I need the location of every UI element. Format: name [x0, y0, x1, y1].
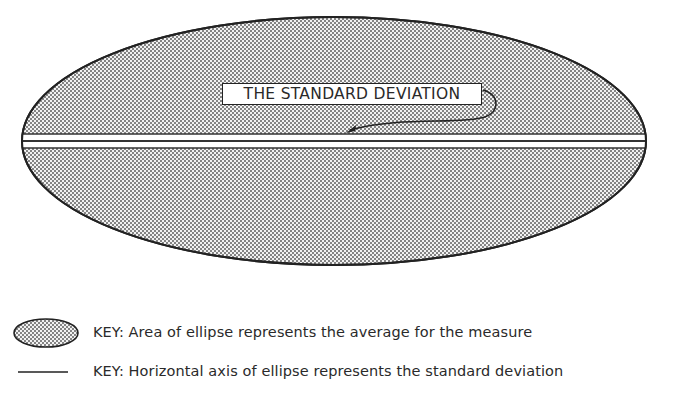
legend-item-axis: KEY: Horizontal axis of ellipse represen… [93, 363, 563, 379]
standard-deviation-label: THE STANDARD DEVIATION [222, 83, 482, 105]
legend-label-axis: KEY: Horizontal axis of ellipse represen… [93, 363, 563, 379]
standard-deviation-axis [0, 134, 685, 148]
legend-label-area: KEY: Area of ellipse represents the aver… [93, 324, 532, 340]
legend-item-area: KEY: Area of ellipse represents the aver… [93, 324, 532, 340]
ellipse-diagram [0, 0, 685, 404]
legend-ellipse-swatch [14, 319, 78, 347]
